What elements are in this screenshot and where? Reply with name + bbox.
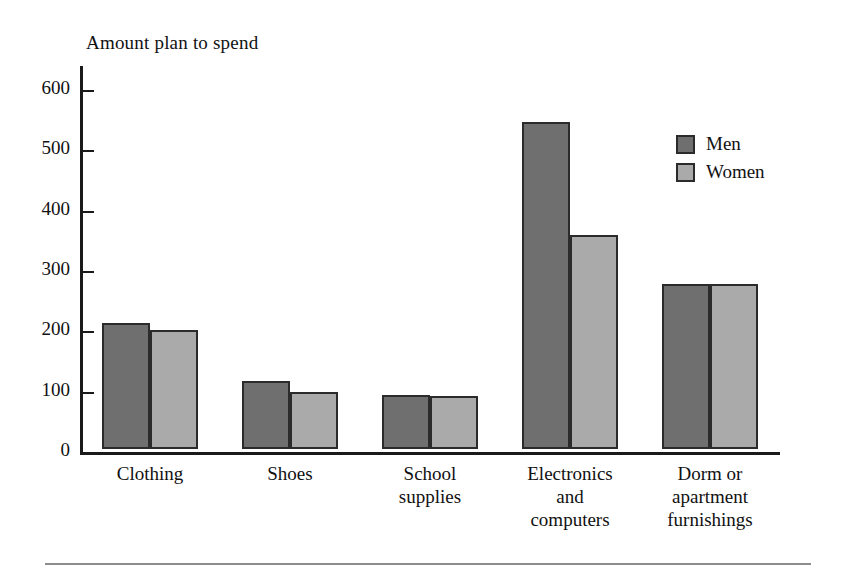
y-axis-tick-mark (83, 150, 94, 152)
bar-women (150, 330, 198, 449)
bar-women (430, 396, 478, 449)
legend-item-women: Women (676, 158, 765, 186)
bar-men (242, 381, 290, 449)
bar-chart-figure: Amount plan to spend 0100200300400500600… (0, 0, 846, 577)
legend-label: Women (706, 158, 765, 186)
y-axis-tick-mark (83, 452, 94, 454)
plot-area: 0100200300400500600 (80, 66, 780, 452)
y-axis-tick-label: 600 (10, 78, 70, 98)
bar-group (102, 63, 198, 449)
bar-group (382, 63, 478, 449)
x-axis-line (80, 452, 780, 455)
bar-men (522, 122, 570, 449)
bar-men (662, 284, 710, 449)
y-axis-tick-label: 100 (10, 380, 70, 400)
bar-women (710, 284, 758, 449)
y-axis-tick-mark (83, 211, 94, 213)
legend-swatch-icon (676, 163, 695, 182)
x-axis-category-label: Clothing (80, 462, 220, 485)
y-axis-tick-mark (83, 271, 94, 273)
y-axis-tick-label: 0 (10, 440, 70, 460)
bar-group (522, 63, 618, 449)
legend-label: Men (706, 130, 741, 158)
y-axis-tick-mark (83, 331, 94, 333)
y-axis-tick-label: 200 (10, 319, 70, 339)
bar-group (662, 63, 758, 449)
x-axis-category-label: Electronics and computers (500, 462, 640, 531)
chart-legend: MenWomen (676, 130, 765, 186)
bar-men (382, 395, 430, 449)
y-axis-tick-label: 400 (10, 199, 70, 219)
bar-group (242, 63, 338, 449)
bar-women (290, 392, 338, 449)
legend-item-men: Men (676, 130, 765, 158)
y-axis-tick-label: 300 (10, 259, 70, 279)
bar-women (570, 235, 618, 449)
y-axis-tick-mark (83, 392, 94, 394)
y-axis-tick-label: 500 (10, 138, 70, 158)
bottom-divider-rule (45, 563, 811, 565)
legend-swatch-icon (676, 135, 695, 154)
bar-men (102, 323, 150, 449)
x-axis-category-label: Dorm or apartment furnishings (640, 462, 780, 531)
y-axis-line (80, 66, 83, 452)
chart-title: Amount plan to spend (86, 32, 258, 54)
x-axis-category-label: School supplies (360, 462, 500, 508)
y-axis-tick-mark (83, 90, 94, 92)
x-axis-category-label: Shoes (220, 462, 360, 485)
